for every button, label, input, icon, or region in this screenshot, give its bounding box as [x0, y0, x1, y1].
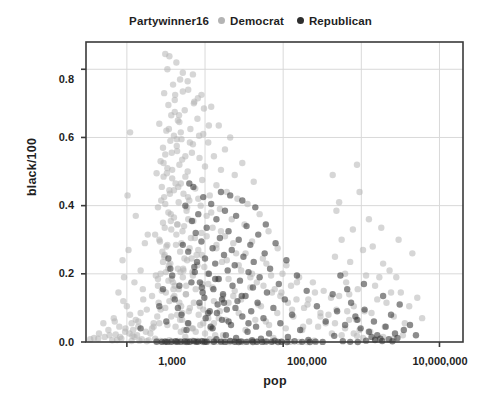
data-point [347, 259, 353, 265]
data-point [304, 301, 310, 307]
data-point [192, 269, 198, 275]
data-point [129, 333, 135, 339]
data-point [176, 112, 182, 118]
data-point [354, 333, 360, 339]
data-point [247, 242, 253, 248]
data-point [336, 293, 342, 299]
data-point [354, 317, 360, 323]
data-point [354, 162, 360, 168]
data-point [179, 228, 185, 234]
data-point [195, 211, 201, 217]
data-point [248, 308, 254, 314]
data-point [272, 286, 278, 292]
data-point [222, 208, 228, 214]
data-point [346, 317, 352, 323]
data-point [203, 225, 209, 231]
data-point [175, 199, 181, 205]
data-point [244, 201, 250, 207]
data-point [197, 202, 203, 208]
data-point [360, 247, 366, 253]
data-point [376, 274, 382, 280]
data-point [96, 330, 102, 336]
data-point [414, 294, 420, 300]
data-point [170, 81, 176, 87]
data-point [366, 216, 372, 222]
data-point [185, 194, 191, 200]
data-point [306, 318, 312, 324]
data-point [207, 308, 213, 314]
data-point [161, 90, 167, 96]
data-point [407, 322, 413, 328]
data-point [342, 322, 348, 328]
data-point [225, 318, 231, 324]
data-point [315, 323, 321, 329]
data-point [310, 279, 316, 285]
data-point [111, 315, 117, 321]
data-point [195, 95, 201, 101]
data-point [133, 317, 139, 323]
data-point [127, 312, 133, 318]
data-point [356, 189, 362, 195]
data-point [207, 323, 213, 329]
data-point [329, 172, 335, 178]
data-point [277, 320, 283, 326]
data-point [229, 247, 235, 253]
data-point [217, 235, 223, 241]
data-point [212, 260, 218, 266]
data-point [361, 306, 367, 312]
data-point [176, 162, 182, 168]
data-point [124, 192, 130, 198]
data-point [133, 213, 139, 219]
data-point [340, 338, 346, 344]
data-point [160, 160, 166, 166]
data-point [208, 104, 214, 110]
data-point [208, 201, 214, 207]
data-point [304, 288, 310, 294]
data-point [156, 320, 162, 326]
data-point [169, 167, 175, 173]
data-point [183, 327, 189, 333]
data-point [177, 76, 183, 82]
data-point [218, 228, 224, 234]
data-point [363, 337, 369, 343]
data-point [140, 286, 146, 292]
data-point [255, 231, 261, 237]
data-point [374, 296, 380, 302]
data-point [382, 323, 388, 329]
data-point [214, 301, 220, 307]
data-point [198, 230, 204, 236]
data-point [168, 313, 174, 319]
data-point [167, 191, 173, 197]
data-point [194, 116, 200, 122]
data-point [194, 259, 200, 265]
data-point [160, 259, 166, 265]
data-point [115, 289, 121, 295]
data-point [196, 133, 202, 139]
data-point [162, 225, 168, 231]
data-point [401, 327, 407, 333]
data-point [239, 160, 245, 166]
data-point [214, 310, 220, 316]
data-point [189, 218, 195, 224]
data-point [180, 69, 186, 75]
data-point [233, 213, 239, 219]
data-point [178, 129, 184, 135]
data-point [124, 303, 130, 309]
data-point [361, 281, 367, 287]
data-point [185, 87, 191, 93]
data-point [176, 283, 182, 289]
data-point [163, 318, 169, 324]
data-point [282, 296, 288, 302]
data-point [232, 305, 238, 311]
data-point [239, 313, 245, 319]
data-point [205, 139, 211, 145]
data-point [116, 323, 122, 329]
data-point [219, 317, 225, 323]
data-point [398, 289, 404, 295]
data-point [368, 310, 374, 316]
data-point [180, 266, 186, 272]
data-point [183, 291, 189, 297]
data-point [409, 250, 415, 256]
data-point [337, 272, 343, 278]
data-point [227, 134, 233, 140]
